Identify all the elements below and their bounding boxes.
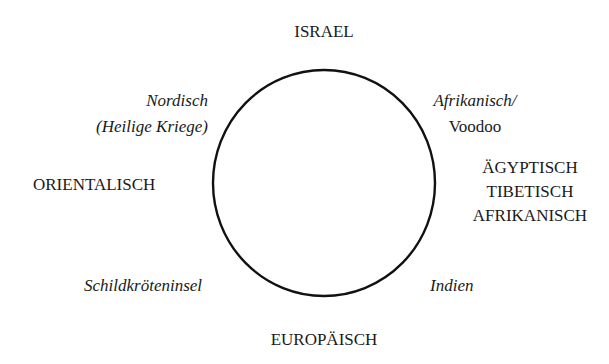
circle-diagram: ISRAEL Nordisch (Heilige Kriege) Afrikan…: [0, 0, 609, 364]
label-line-2: Voodoo: [420, 114, 530, 140]
circle-outline: [213, 70, 435, 296]
label-bottom-europaeisch: EUROPÄISCH: [244, 327, 404, 353]
label-text: ISRAEL: [294, 22, 354, 41]
label-line-2: TIBETISCH: [455, 180, 605, 204]
label-top-left-nordisch: Nordisch (Heilige Kriege): [40, 88, 208, 140]
label-text: Indien: [430, 276, 473, 295]
label-text: Schildkröteninsel: [84, 276, 202, 295]
label-top-israel: ISRAEL: [264, 19, 384, 45]
label-line-1: Afrikanisch/: [420, 88, 530, 114]
label-right-aegyptisch-tibetisch-afrikanisch: ÄGYPTISCH TIBETISCH AFRIKANISCH: [455, 156, 605, 228]
label-line-1: Nordisch: [40, 88, 208, 114]
label-line-3: AFRIKANISCH: [455, 204, 605, 228]
label-bottom-right-indien: Indien: [430, 273, 473, 299]
label-text: ORIENTALISCH: [33, 175, 155, 194]
label-left-orientalisch: ORIENTALISCH: [33, 172, 155, 198]
label-line-2: (Heilige Kriege): [40, 114, 208, 140]
label-top-right-afrikanisch-voodoo: Afrikanisch/ Voodoo: [420, 88, 530, 140]
label-line-1: ÄGYPTISCH: [455, 156, 605, 180]
label-bottom-left-schildkroeteninsel: Schildkröteninsel: [84, 273, 202, 299]
label-text: EUROPÄISCH: [271, 330, 378, 349]
